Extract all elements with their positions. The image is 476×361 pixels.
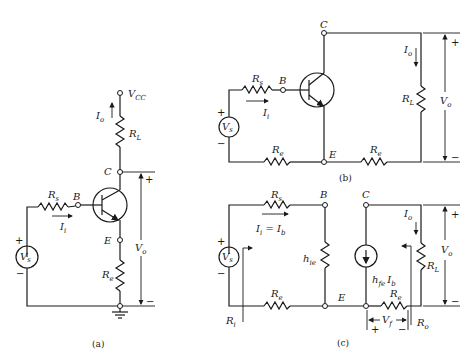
collector-node	[118, 170, 123, 175]
emitter-node	[118, 238, 123, 243]
re-right-resistor	[361, 158, 387, 165]
re-right-resistor	[381, 302, 407, 309]
caption-b: (b)	[339, 173, 352, 183]
ri-label: Ri	[225, 315, 236, 329]
ri-arrow	[243, 248, 252, 322]
svg-text:−: −	[451, 296, 459, 307]
vs-label: Vs	[222, 251, 233, 264]
re-left-resistor	[264, 302, 290, 309]
c-label: C	[320, 19, 328, 30]
rl-label: RL	[128, 128, 142, 142]
base-node	[281, 88, 286, 93]
re-left-label: Re	[271, 144, 284, 158]
vo-label: Vo	[440, 95, 451, 109]
vs-label: Vs	[222, 121, 233, 134]
io-label: Io	[403, 208, 412, 222]
re-label: Re	[101, 269, 114, 283]
svg-text:+: +	[451, 37, 459, 48]
rl-resistor	[417, 86, 425, 112]
ro-label: Ro	[416, 317, 429, 331]
hie-label: hie	[303, 253, 316, 267]
panel-a: VCC RL Io C B Rs Ii Vs +	[15, 88, 155, 349]
rs-resistor	[242, 86, 272, 93]
panel-c: Rs B Ii = Ib Vs + − Ri hie Re E C hf	[217, 189, 460, 348]
node-e-left	[323, 304, 328, 309]
e-label: E	[103, 235, 112, 246]
rl-label: RL	[401, 93, 415, 107]
svg-text:+: +	[217, 107, 225, 118]
io-label: Io	[403, 44, 412, 58]
e-label: E	[337, 292, 346, 303]
vcc-terminal	[118, 91, 123, 96]
c-label: C	[362, 189, 370, 200]
emitter-node	[364, 304, 369, 309]
vf-label: Vf	[382, 314, 393, 328]
svg-text:+: +	[371, 324, 379, 335]
b-label: B	[72, 191, 80, 202]
svg-text:−: −	[217, 138, 225, 149]
ii-label: Ii	[59, 221, 66, 235]
vs-label: Vs	[20, 251, 31, 264]
vcc-label: VCC	[128, 88, 147, 102]
svg-text:−: −	[398, 324, 406, 335]
rs-label: Rs	[251, 73, 264, 87]
io-label: Io	[95, 110, 104, 124]
base-node	[76, 203, 81, 208]
re-resistor	[116, 260, 124, 291]
svg-text:+: +	[451, 209, 459, 220]
rl-resistor	[417, 243, 425, 270]
b-label: B	[319, 189, 327, 200]
re-left-label: Re	[270, 288, 283, 302]
rs-label: Rs	[47, 189, 60, 203]
circuit-figure: VCC RL Io C B Rs Ii Vs +	[0, 0, 476, 361]
vo-label: Vo	[135, 242, 146, 256]
ii-label: Ii	[262, 107, 269, 121]
panel-b: C B Rs Ii Vs + − Re E	[217, 19, 460, 183]
rl-resistor	[116, 116, 124, 147]
re-right-label: Re	[369, 144, 382, 158]
hie-resistor	[321, 242, 329, 268]
b-label: B	[278, 75, 286, 86]
svg-text:−: −	[451, 152, 459, 163]
ground-node	[118, 304, 123, 309]
ii-eq-label: Ii = Ib	[255, 223, 286, 237]
svg-text:+: +	[15, 235, 23, 246]
rs-label: Rs	[270, 189, 283, 203]
svg-text:−: −	[146, 296, 154, 307]
e-label: E	[328, 149, 337, 160]
rl-label: RL	[426, 260, 440, 274]
rs-resistor	[38, 203, 68, 210]
caption-a: (a)	[92, 339, 104, 349]
svg-text:−: −	[16, 268, 24, 279]
base-node	[323, 203, 328, 208]
svg-text:+: +	[145, 174, 153, 185]
re-left-resistor	[264, 158, 290, 165]
re-right-label: Re	[389, 288, 402, 302]
hfe-ib-label: hfeIb	[372, 274, 396, 288]
collector-node	[322, 31, 327, 36]
c-label: C	[104, 166, 112, 177]
emitter-node	[322, 160, 327, 165]
rs-resistor	[264, 201, 290, 208]
svg-text:−: −	[217, 268, 225, 279]
svg-text:+: +	[217, 236, 225, 247]
caption-c: (c)	[337, 338, 349, 348]
ro-arrow	[402, 246, 411, 325]
vo-label: Vo	[441, 244, 452, 258]
collector-node	[364, 203, 369, 208]
